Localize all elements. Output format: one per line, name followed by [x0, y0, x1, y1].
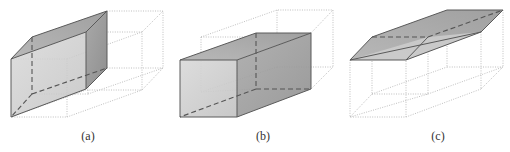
panel-b: [180, 10, 333, 117]
panel-a: [11, 11, 163, 117]
solid-c: [350, 10, 503, 60]
panel-c: [350, 10, 503, 117]
panel-a-label: (a): [81, 129, 94, 144]
solid-a: [11, 11, 107, 117]
panel-b-label: (b): [256, 129, 270, 144]
solid-b: [180, 33, 311, 117]
panel-c-label: (c): [431, 129, 444, 144]
